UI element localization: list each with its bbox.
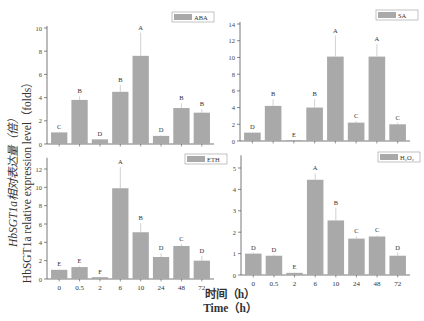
legend-swatch <box>378 12 396 18</box>
y-tick-label: 6 <box>232 87 236 94</box>
significance-letter: F <box>98 268 102 275</box>
y-tick-label: 8 <box>39 48 42 55</box>
x-tick-label: 24 <box>158 284 166 292</box>
bar <box>328 220 345 275</box>
bar <box>348 239 365 275</box>
bar <box>71 267 87 279</box>
significance-letter: C <box>179 235 183 242</box>
x-tick-label: 2 <box>98 284 102 292</box>
bar <box>51 132 67 144</box>
significance-letter: D <box>159 126 164 133</box>
chart-panel-eth: 024681012E0E0.5F2A6B10D24C48D72ETH <box>36 154 228 292</box>
significance-letter: C <box>57 123 61 130</box>
bar <box>389 256 406 275</box>
x-tick-label: 72 <box>394 280 402 288</box>
bar <box>245 254 262 275</box>
y-tick-label: 0 <box>232 138 235 145</box>
bar <box>153 257 169 279</box>
bar <box>173 246 189 279</box>
y-tick-label: 6 <box>39 71 43 78</box>
significance-letter: D <box>159 244 164 251</box>
significance-letter: E <box>57 260 61 267</box>
x-tick-label: 0 <box>57 284 61 292</box>
significance-letter: B <box>139 214 144 221</box>
legend: SA <box>376 10 418 20</box>
bar <box>389 124 406 141</box>
bar <box>51 270 67 279</box>
x-axis-label-en: Time（h） <box>180 301 280 315</box>
significance-letter: D <box>272 246 277 253</box>
y-tick-label: 14 <box>229 21 236 28</box>
x-tick-label: 48 <box>374 280 382 288</box>
y-tick-label: 5 <box>233 165 236 172</box>
bar <box>153 136 169 144</box>
significance-letter: C <box>354 227 358 234</box>
x-tick-label: 6 <box>119 284 123 292</box>
bar <box>173 108 189 144</box>
chart-panel-aba: 0246810CBDBADBBABA <box>36 12 215 148</box>
significance-letter: D <box>251 244 256 251</box>
y-tick-label: 12 <box>229 37 236 44</box>
bar <box>92 139 108 144</box>
x-axis-label: 时间（h） Time（h） <box>180 287 280 315</box>
significance-letter: E <box>292 131 296 138</box>
y-tick-label: 2 <box>232 121 235 128</box>
significance-letter: D <box>250 123 255 130</box>
bar <box>369 57 386 141</box>
y-axis-label-en: HbSGT1a relative expression level（folds） <box>20 77 34 283</box>
significance-letter: C <box>354 112 358 119</box>
bar <box>369 236 386 275</box>
bar <box>286 140 303 141</box>
bar <box>286 273 303 275</box>
significance-letter: B <box>334 199 339 206</box>
y-tick-label: 1 <box>233 250 236 257</box>
legend-label: ABA <box>194 14 208 21</box>
legend: H₂O₂ <box>378 152 420 162</box>
legend-swatch <box>174 14 192 20</box>
bar <box>348 123 365 141</box>
significance-letter: A <box>375 35 380 42</box>
bar <box>133 56 149 144</box>
bar <box>244 133 261 141</box>
bar-chart-grid: 0246810CBDBADBBABA02468101214DBEBACACSA0… <box>0 0 424 321</box>
significance-letter: B <box>118 76 123 83</box>
legend-label: H₂O₂ <box>400 154 414 161</box>
y-tick-label: 2 <box>233 229 236 236</box>
x-tick-label: 24 <box>353 280 361 288</box>
bar <box>92 277 108 279</box>
legend-label: SA <box>398 12 407 19</box>
y-tick-label: 3 <box>233 207 236 214</box>
y-tick-label: 10 <box>36 25 43 32</box>
bar <box>194 261 210 279</box>
significance-letter: B <box>312 90 317 97</box>
x-tick-label: 0.5 <box>75 284 84 292</box>
y-axis-label: HbSGT1a相对表达量（倍） HbSGT1a relative express… <box>0 80 40 280</box>
x-axis-label-cn: 时间（h） <box>180 287 280 301</box>
significance-letter: B <box>271 90 276 97</box>
significance-letter: D <box>199 247 204 254</box>
legend: ETH <box>185 154 227 164</box>
significance-letter: D <box>98 130 103 137</box>
significance-letter: D <box>395 244 400 251</box>
bar <box>112 92 128 144</box>
x-tick-label: 2 <box>293 280 297 288</box>
y-tick-label: 10 <box>229 54 236 61</box>
bar <box>327 57 344 141</box>
significance-letter: C <box>375 226 379 233</box>
significance-letter: E <box>78 257 82 264</box>
significance-letter: A <box>118 158 123 165</box>
significance-letter: A <box>313 164 318 171</box>
significance-letter: C <box>395 114 399 121</box>
legend-swatch <box>187 156 205 162</box>
y-tick-label: 0 <box>233 272 236 279</box>
x-tick-label: 10 <box>137 284 145 292</box>
bar <box>112 188 128 279</box>
x-tick-label: 10 <box>332 280 340 288</box>
bar <box>71 100 87 144</box>
significance-letter: E <box>293 263 297 270</box>
significance-letter: B <box>200 100 205 107</box>
significance-letter: A <box>138 24 143 31</box>
legend-swatch <box>380 154 398 160</box>
bar <box>265 106 282 141</box>
chart-panel-sa: 02468101214DBEBACACSA <box>229 10 419 145</box>
